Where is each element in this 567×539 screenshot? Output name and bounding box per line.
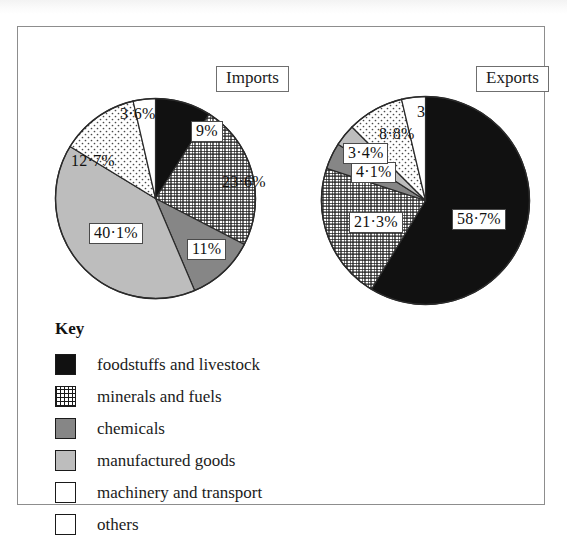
key-legend: Key foodstuffs and livestock minerals an…	[55, 319, 262, 539]
slice-label-imports-others: 3·6%	[120, 105, 155, 122]
key-item-others: others	[55, 508, 262, 539]
slice-label-exports-chemicals: 4·1%	[351, 162, 396, 183]
scan-artifact-band	[0, 0, 567, 14]
slice-label-exports-others: 3·7%	[417, 103, 452, 120]
slice-label-exports-manufactured: 3·4%	[343, 143, 388, 164]
slice-label-imports-machinery: 12·7%	[71, 152, 115, 169]
slice-label-imports-foodstuffs: 9%	[191, 121, 223, 142]
key-item-manufactured-goods: manufactured goods	[55, 444, 262, 476]
pie-exports-svg	[320, 95, 531, 306]
chart-title-exports: Exports	[476, 66, 549, 92]
key-swatch-manufactured-icon	[55, 450, 76, 471]
key-heading: Key	[55, 319, 262, 338]
key-label-manufactured: manufactured goods	[97, 451, 235, 470]
pie-imports-slices	[56, 99, 256, 299]
pie-imports-svg	[54, 97, 257, 300]
slice-label-exports-minerals: 21·3%	[349, 212, 403, 233]
key-label-others: others	[97, 515, 139, 534]
key-item-foodstuffs-and-livestock: foodstuffs and livestock	[55, 348, 262, 380]
key-label-machinery: machinery and transport	[97, 483, 262, 502]
pie-chart-exports	[320, 95, 531, 306]
key-swatch-chemicals-icon	[55, 418, 76, 439]
slice-label-imports-chemicals: 11%	[187, 239, 226, 260]
slice-label-exports-foodstuffs: 58·7%	[452, 209, 506, 230]
key-swatch-foodstuffs-icon	[55, 354, 76, 375]
key-item-minerals-and-fuels: minerals and fuels	[55, 380, 262, 412]
chart-title-imports: Imports	[216, 66, 289, 92]
key-label-foodstuffs: foodstuffs and livestock	[97, 355, 260, 374]
figure-frame: Imports Exports 9% 23·6% 11% 40·1% 12·7%…	[17, 26, 545, 505]
key-label-minerals: minerals and fuels	[97, 387, 222, 406]
key-swatch-machinery-icon	[55, 482, 76, 503]
pie-exports-slices	[322, 97, 530, 305]
key-item-machinery-and-transport: machinery and transport	[55, 476, 262, 508]
pie-chart-imports	[54, 97, 257, 300]
slice-label-imports-minerals: 23·6%	[222, 173, 266, 190]
key-item-chemicals: chemicals	[55, 412, 262, 444]
slice-label-imports-manufactured: 40·1%	[89, 223, 143, 244]
key-swatch-others-icon	[55, 514, 76, 535]
slice-label-exports-machinery: 8·8%	[379, 125, 414, 142]
key-label-chemicals: chemicals	[97, 419, 165, 438]
key-swatch-minerals-icon	[55, 386, 76, 407]
